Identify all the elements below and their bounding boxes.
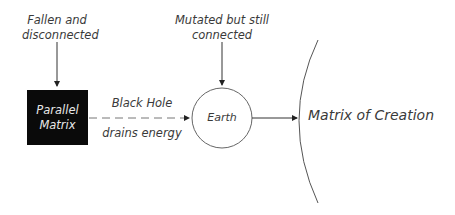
fallen-line2: disconnected xyxy=(22,28,92,43)
parallel-matrix-line2: Matrix xyxy=(39,118,75,133)
parallel-matrix-node: Parallel Matrix xyxy=(27,90,88,145)
mutated-line1: Mutated but still xyxy=(172,13,272,28)
earth-label: Earth xyxy=(196,110,248,125)
parallel-matrix-line1: Parallel xyxy=(36,103,78,118)
black-hole-label: Black Hole xyxy=(102,96,182,111)
fallen-annotation: Fallen and disconnected xyxy=(22,13,92,43)
mutated-line2: connected xyxy=(172,28,272,43)
fallen-line1: Fallen and xyxy=(22,13,92,28)
mutated-annotation: Mutated but still connected xyxy=(172,13,272,43)
drains-energy-label: drains energy xyxy=(99,126,185,141)
matrix-of-creation-label: Matrix of Creation xyxy=(308,106,438,124)
